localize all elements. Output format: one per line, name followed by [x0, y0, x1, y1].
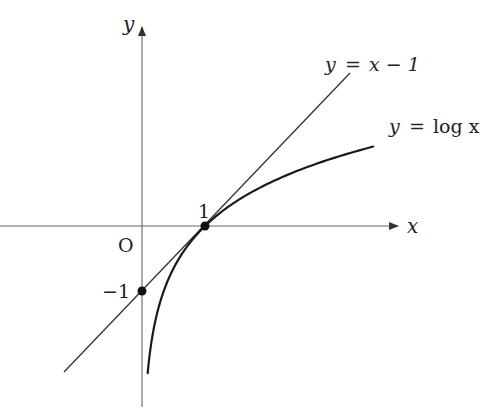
log-curve-label: y = log x [388, 115, 480, 137]
y-tick-minus1-label: −1 [102, 280, 130, 302]
x-tick-1-label: 1 [198, 200, 210, 222]
log-label-rhs: log x [433, 115, 480, 137]
log-label-eq: = [409, 115, 425, 137]
point-0-minus1 [138, 287, 147, 296]
tangent-label-rhs: x − 1 [369, 53, 420, 75]
point-1-0 [201, 222, 210, 231]
log-label-lhs: y [388, 115, 400, 137]
tangent-label-eq: = [345, 53, 361, 75]
x-axis-label: x [407, 214, 418, 238]
origin-label: O [118, 234, 134, 256]
graph-canvas: y x O 1 −1 y = x − 1 y = log x [0, 0, 485, 419]
tangent-label-lhs: y [324, 53, 336, 75]
y-axis-label: y [122, 12, 135, 36]
tangent-line-label: y = x − 1 [324, 53, 420, 75]
log-curve [148, 147, 374, 374]
